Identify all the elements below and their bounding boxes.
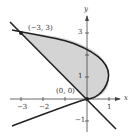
y-tick-3: 3 bbox=[78, 29, 82, 36]
y-axis-arrow bbox=[85, 15, 89, 21]
y-tick-neg1: −1 bbox=[75, 117, 85, 124]
plot-svg bbox=[0, 0, 135, 140]
x-axis-label: x bbox=[124, 95, 128, 102]
y-tick-1: 1 bbox=[78, 73, 82, 80]
x-axis-arrow bbox=[115, 97, 121, 101]
point-label-origin: (0, 0) bbox=[56, 88, 75, 95]
x-tick-neg2: −2 bbox=[39, 104, 49, 111]
x-tick-neg3: −3 bbox=[17, 104, 27, 111]
point-label-neg3-3: (−3, 3) bbox=[28, 25, 53, 32]
diagram: (−3, 3) (0, 0) x y −3 −2 1 3 1 −1 bbox=[0, 0, 135, 140]
intersection-point-neg3-3 bbox=[19, 31, 23, 35]
intersection-point-origin bbox=[85, 97, 89, 101]
x-tick-1: 1 bbox=[107, 104, 111, 111]
y-axis-label: y bbox=[84, 6, 88, 13]
